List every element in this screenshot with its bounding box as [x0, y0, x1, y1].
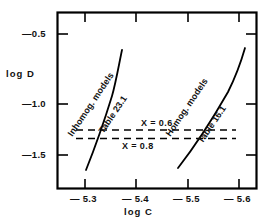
figure-container: —0.5 —1.0 —1.5 log D — 5.3 — 5.4 — 5.5 —… [0, 0, 271, 223]
y-axis-title: log D [6, 68, 35, 79]
label-x-08: X = 0.8 [122, 141, 154, 151]
y-tick-label-0: —0.5 [22, 28, 46, 39]
x-axis-ticks-top [85, 13, 239, 22]
y-axis-ticks-right [246, 34, 256, 155]
x-tick-label-1: — 5.4 [122, 193, 149, 204]
y-tick-label-1: —1.0 [22, 98, 46, 109]
y-axis-ticks-left [58, 34, 68, 155]
x-tick-label-0: — 5.3 [70, 193, 97, 204]
x-axis-ticks-bottom [85, 179, 239, 188]
y-tick-label-2: —1.5 [22, 149, 46, 160]
x-tick-label-3: — 5.6 [224, 193, 251, 204]
label-x-06: X = 0.6 [141, 118, 173, 128]
x-tick-label-2: — 5.5 [173, 193, 200, 204]
x-axis-title: log C [124, 206, 153, 217]
